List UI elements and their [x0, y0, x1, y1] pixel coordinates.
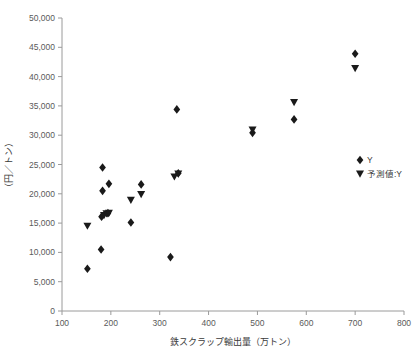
- data-point: [106, 180, 113, 189]
- x-tick-label: 500: [250, 318, 264, 328]
- data-point: [290, 99, 298, 106]
- x-tick-label: 300: [153, 318, 167, 328]
- data-point: [351, 65, 359, 72]
- scatter-chart: 05,00010,00015,00020,00025,00030,00035,0…: [0, 0, 420, 349]
- legend-marker: [357, 156, 364, 165]
- x-tick-label: 800: [397, 318, 411, 328]
- legend-label: 予測値:Y: [367, 169, 402, 179]
- data-point: [99, 187, 106, 196]
- data-point: [83, 223, 91, 230]
- legend-marker: [356, 171, 364, 178]
- y-tick-label: 35,000: [29, 101, 55, 111]
- y-tick-label: 5,000: [34, 277, 56, 287]
- x-tick-label: 100: [55, 318, 69, 328]
- x-tick-label: 600: [299, 318, 313, 328]
- y-tick-label: 45,000: [29, 42, 55, 52]
- data-point: [291, 115, 298, 124]
- data-point: [128, 218, 135, 227]
- y-tick-label: 10,000: [29, 247, 55, 257]
- series-actual: [84, 49, 358, 273]
- data-point: [84, 265, 91, 274]
- legend-label: Y: [367, 155, 373, 165]
- y-axis-title: （円／トン）: [4, 138, 14, 192]
- y-tick-label: 15,000: [29, 218, 55, 228]
- data-point: [127, 197, 135, 204]
- data-point: [137, 191, 145, 198]
- x-tick-label: 400: [201, 318, 215, 328]
- y-tick-label: 40,000: [29, 72, 55, 82]
- y-tick-label: 25,000: [29, 160, 55, 170]
- y-tick-label: 30,000: [29, 130, 55, 140]
- data-point: [138, 180, 145, 189]
- series-predicted: [83, 65, 359, 230]
- data-point: [167, 253, 174, 262]
- x-tick-label: 700: [348, 318, 362, 328]
- data-point: [352, 49, 359, 58]
- y-tick-label: 50,000: [29, 13, 55, 23]
- data-point: [173, 105, 180, 114]
- data-point: [99, 163, 106, 172]
- x-axis-title: 鉄スクラップ輸出量（万トン）: [170, 336, 296, 347]
- y-tick-label: 20,000: [29, 189, 55, 199]
- data-point: [98, 245, 105, 254]
- y-tick-label: 0: [50, 306, 55, 316]
- chart-canvas: 05,00010,00015,00020,00025,00030,00035,0…: [0, 0, 420, 349]
- x-tick-label: 200: [104, 318, 118, 328]
